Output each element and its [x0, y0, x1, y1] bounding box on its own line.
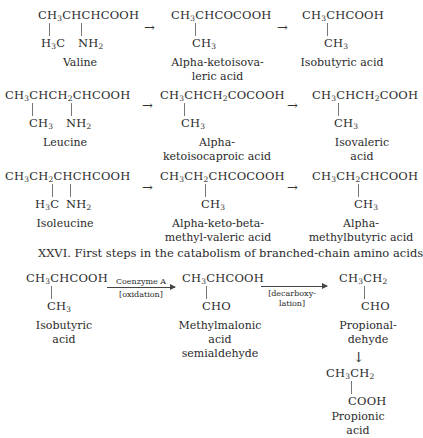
- reaction-arrow: →: [287, 98, 298, 113]
- bond: [364, 286, 365, 299]
- pathway-propionic-substituent: COOH: [348, 394, 386, 408]
- pathway-methylmalonic-substituent: CHO: [202, 299, 231, 313]
- bond: [52, 184, 53, 197]
- isoleucine-substituent-2: NH2: [66, 197, 91, 211]
- leucine-substituent-2: NH2: [66, 116, 91, 130]
- ketoisocaproic-substituent: CH3: [181, 116, 205, 130]
- leucine-substituent-1: CH3: [29, 116, 53, 130]
- ketomethylvaleric-name: Alpha-keto-beta-methyl-valeric acid: [158, 217, 278, 245]
- pathway-isobutyric-name: Isobutyric acid: [26, 319, 102, 347]
- isobutyric-substituent: CH3: [324, 36, 348, 50]
- pathway-isobutyric-substituent: CH3: [47, 299, 71, 313]
- isoleucine-substituent-1: H3C: [35, 197, 59, 211]
- bond: [327, 23, 328, 36]
- isoleucine-name: Isoleucine: [25, 217, 105, 231]
- ketoisovaleric-substituent: CH3: [192, 36, 216, 50]
- leucine-name: Leucine: [30, 136, 100, 150]
- pathway-propionic-formula: CH3CH2: [326, 366, 374, 380]
- ketoisocaproic-formula: CH3CHCH2COCOOH: [160, 88, 285, 102]
- bond: [81, 23, 82, 36]
- reaction-arrow: →: [142, 98, 153, 113]
- isovaleric-formula: CH3CHCH2COOH: [312, 88, 418, 102]
- pathway-propionaldehyde-name: Propional- dehyde: [330, 319, 406, 347]
- isovaleric-substituent: CH3: [334, 116, 358, 130]
- bond: [338, 103, 339, 116]
- methylbutyric-substituent: CH3: [354, 197, 378, 211]
- bond: [206, 286, 207, 299]
- bond: [32, 103, 33, 116]
- isobutyric-name: Isobutyric acid: [297, 56, 387, 70]
- ketoisovaleric-formula: CH3CHCOCOOH: [171, 8, 272, 22]
- bond: [49, 23, 50, 36]
- methylbutyric-formula: CH3CH2CHCOOH: [312, 169, 418, 183]
- arrow-condition-below: [oxidation]: [106, 290, 176, 300]
- reaction-arrow: →: [142, 180, 153, 195]
- pathway-propionaldehyde-formula: CH3CH2: [339, 271, 387, 285]
- valine-substituent-1: H3C: [41, 36, 65, 50]
- methylbutyric-name: Alpha-methylbutyric acid: [308, 217, 414, 245]
- bond: [71, 103, 72, 116]
- reaction-arrow-decarboxylation: [261, 286, 327, 287]
- bond: [51, 286, 52, 299]
- pathway-isobutyric-formula: CH3CHCOOH: [26, 271, 108, 285]
- reaction-arrow: →: [277, 20, 288, 35]
- isoleucine-formula: CH3CH2CHCHCOOH: [5, 169, 130, 183]
- reaction-arrow-oxidation: [107, 287, 175, 288]
- arrow-condition-below: [decarboxy- lation]: [262, 289, 322, 309]
- ketomethylvaleric-formula: CH3CH2CHCOCOOH: [160, 169, 285, 183]
- valine-substituent-2: NH2: [78, 36, 103, 50]
- pathway-methylmalonic-name: Methylmalonic acid semialdehyde: [170, 319, 270, 361]
- reaction-arrow: →: [287, 180, 298, 195]
- bond: [195, 23, 196, 36]
- valine-formula: CH3CHCHCOOH: [38, 8, 139, 22]
- ketoisovaleric-name: Alpha-ketoisova-leric acid: [170, 56, 265, 84]
- pathway-propionaldehyde-substituent: CHO: [361, 299, 390, 313]
- pathway-propionic-name: Propionic acid: [320, 410, 396, 438]
- pathway-methylmalonic-formula: CH3CHCOOH: [182, 271, 264, 285]
- ketoisocaproic-name: Alpha-ketoisocaproic acid: [160, 136, 274, 164]
- figure-caption: XXVI. First steps in the catabolism of b…: [38, 246, 423, 260]
- valine-name: Valine: [40, 56, 120, 70]
- arrow-condition-above: Coenzyme A: [106, 277, 176, 287]
- reaction-arrow: →: [144, 20, 155, 35]
- ketomethylvaleric-substituent: CH3: [201, 197, 225, 211]
- bond: [205, 184, 206, 197]
- bond: [184, 103, 185, 116]
- reaction-arrow-down: ↓: [353, 349, 365, 365]
- isobutyric-formula: CH3CHCOOH: [302, 8, 384, 22]
- leucine-formula: CH3CHCH2CHCOOH: [5, 88, 130, 102]
- isovaleric-name: Isovaleric acid: [322, 136, 402, 164]
- bond: [351, 381, 352, 394]
- bond: [70, 184, 71, 197]
- bond: [358, 184, 359, 197]
